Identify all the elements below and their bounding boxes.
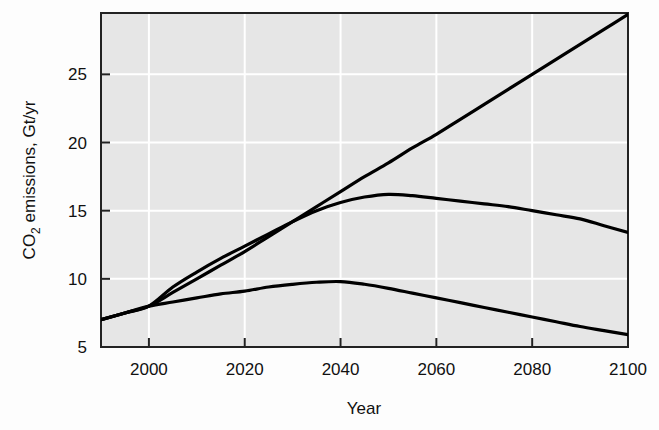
svg-text:CO2 emissions, Gt/yr: CO2 emissions, Gt/yr xyxy=(20,100,43,259)
x-tick-label: 2060 xyxy=(417,360,455,379)
x-tick-label: 2020 xyxy=(226,360,264,379)
y-axis-title-suffix: emissions, Gt/yr xyxy=(20,100,39,227)
y-axis-tick-labels: 510152025 xyxy=(68,65,87,357)
x-tick-label: 2000 xyxy=(130,360,168,379)
co2-emissions-line-chart: 510152025 200020202040206020802100 Year … xyxy=(0,0,659,430)
y-axis-title-prefix: CO xyxy=(20,234,39,260)
x-tick-label: 2080 xyxy=(513,360,551,379)
x-axis-title: Year xyxy=(347,399,382,418)
x-axis-tick-labels: 200020202040206020802100 xyxy=(130,360,647,379)
y-tick-label: 15 xyxy=(68,202,87,221)
y-tick-label: 20 xyxy=(68,134,87,153)
y-tick-label: 5 xyxy=(78,338,87,357)
figure-container: 510152025 200020202040206020802100 Year … xyxy=(0,0,659,430)
y-tick-label: 10 xyxy=(68,270,87,289)
y-tick-label: 25 xyxy=(68,65,87,84)
x-tick-label: 2100 xyxy=(609,360,647,379)
y-axis-title: CO2 emissions, Gt/yr xyxy=(20,100,43,259)
x-tick-label: 2040 xyxy=(322,360,360,379)
